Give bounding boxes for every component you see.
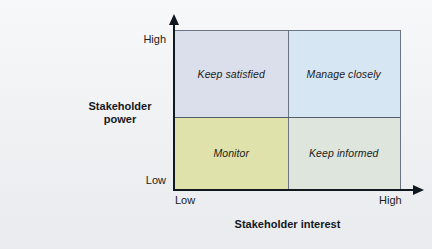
quadrant-label-manage-closely: Manage closely [307, 68, 381, 80]
quadrant-monitor: Monitor [175, 117, 288, 189]
quadrant-label-keep-informed: Keep informed [309, 147, 379, 159]
quadrant-keep-satisfied: Keep satisfied [175, 31, 288, 117]
y-axis-arrow-icon [169, 14, 179, 25]
x-axis-tick-high: High [379, 194, 402, 206]
stakeholder-matrix-diagram: Keep satisfied Manage closely Monitor Ke… [0, 0, 432, 249]
y-axis-title-line2: power [76, 113, 164, 126]
x-axis-tick-low: Low [175, 194, 195, 206]
matrix-plot-area: Keep satisfied Manage closely Monitor Ke… [174, 30, 401, 190]
x-axis-title: Stakeholder interest [174, 218, 401, 230]
quadrant-vertical-divider [288, 31, 289, 189]
quadrant-horizontal-divider [175, 117, 400, 118]
y-axis-title: Stakeholder power [76, 100, 164, 126]
quadrant-keep-informed: Keep informed [288, 117, 401, 189]
x-axis-line [173, 189, 416, 191]
y-axis-line [173, 23, 175, 191]
y-axis-tick-low: Low [146, 174, 166, 186]
x-axis-arrow-icon [413, 185, 424, 195]
y-axis-tick-high: High [143, 33, 166, 45]
quadrant-manage-closely: Manage closely [288, 31, 401, 117]
quadrant-label-monitor: Monitor [213, 147, 249, 159]
y-axis-title-line1: Stakeholder [76, 100, 164, 113]
quadrant-label-keep-satisfied: Keep satisfied [198, 68, 265, 80]
